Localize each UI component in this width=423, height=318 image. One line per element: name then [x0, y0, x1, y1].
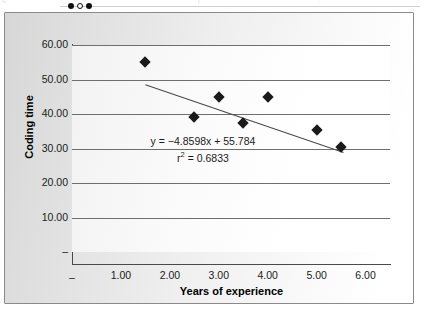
x-tick-label-3: 3.00 [196, 269, 242, 281]
cropped-top-strip: © | · [0, 0, 423, 11]
top-strip-rule [60, 6, 420, 7]
x-tick-label-0: – [49, 271, 95, 283]
x-tick-label-1: 1.00 [98, 269, 144, 281]
top-strip-mid-ghost-text: | [198, 0, 200, 4]
y-tick-label-40: 40.00 [10, 108, 68, 119]
regression-annotation: y = −4.8598x + 55.784 r2 = 0.6833 [113, 135, 293, 165]
r-value: = 0.6833 [185, 152, 229, 164]
y-tick-label-20: 20.00 [10, 177, 68, 188]
y-tick-label-0: – [10, 246, 68, 257]
top-strip-right-ghost-text: · [318, 0, 320, 4]
chart-object-frame[interactable]: –10.0020.0030.0040.0050.0060.00 Coding t… [4, 12, 414, 304]
x-tick-label-4: 4.00 [245, 269, 291, 281]
selection-dot-right[interactable] [86, 3, 92, 9]
x-tick-label-6: 6.00 [343, 269, 389, 281]
y-axis-tick-labels: –10.0020.0030.0040.0050.0060.00 [7, 13, 68, 305]
selection-dot-left[interactable] [68, 3, 74, 9]
x-axis-title: Years of experience [72, 285, 391, 297]
top-strip-left-ghost-text: © [2, 0, 6, 4]
x-tick-label-2: 2.00 [147, 269, 193, 281]
r-squared-line: r2 = 0.6833 [113, 148, 293, 165]
y-tick-label-60: 60.00 [10, 39, 68, 50]
x-axis-line [72, 264, 391, 265]
selection-dot-middle[interactable] [77, 3, 83, 9]
y-axis-title: Coding time [23, 95, 35, 159]
x-tick-label-5: 5.00 [294, 269, 340, 281]
y-tick-label-30: 30.00 [10, 143, 68, 154]
y-tick-label-10: 10.00 [10, 212, 68, 223]
y-tick-label-50: 50.00 [10, 74, 68, 85]
regression-equation: y = −4.8598x + 55.784 [113, 135, 293, 148]
